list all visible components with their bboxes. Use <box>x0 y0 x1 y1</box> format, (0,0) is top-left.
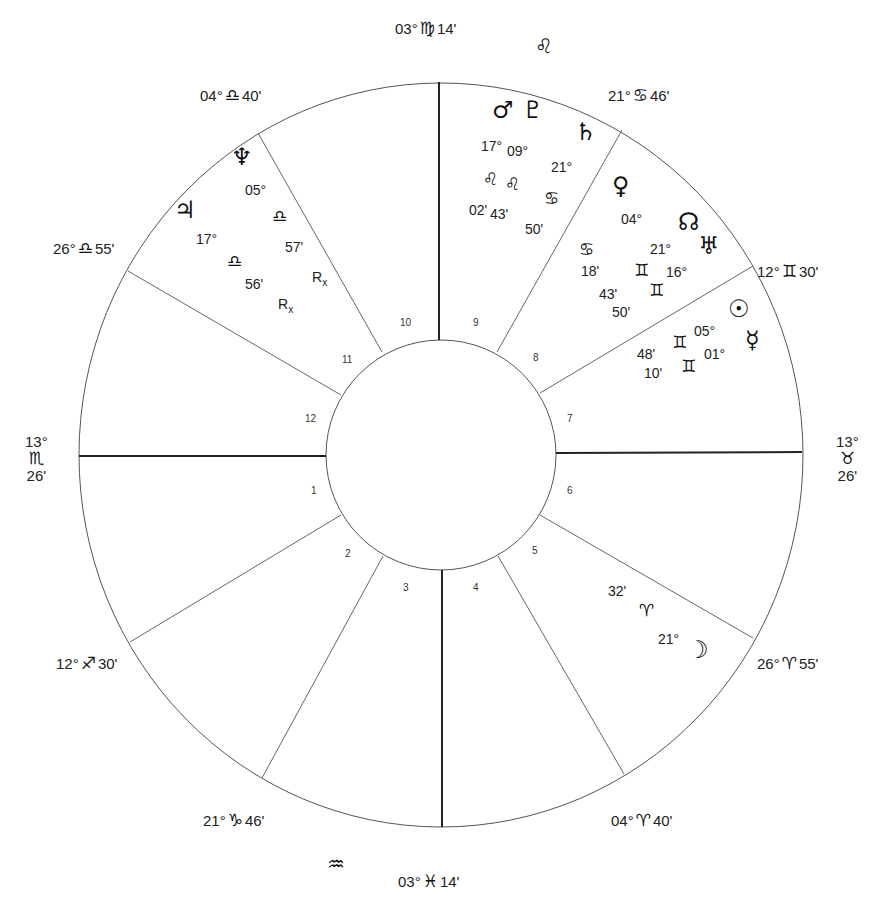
cusp-12-11 <box>128 271 341 395</box>
cusp-minutes: 14' <box>437 20 457 37</box>
venus-degree: 04° <box>621 212 642 226</box>
cusp-minutes: 30' <box>98 655 118 672</box>
cusp-minutes: 55' <box>95 240 115 257</box>
zodiac-sign-icon: ♋ <box>579 241 594 258</box>
mars-degree: 17° <box>481 139 502 153</box>
zodiac-sign-icon: ♈ <box>639 602 654 619</box>
zodiac-sign-icon: ♈ <box>782 653 797 673</box>
venus-minutes: 18' <box>581 264 599 278</box>
jupiter-icon: ♃ <box>174 198 196 222</box>
zodiac-sign-icon: ♌ <box>505 176 520 193</box>
cusp-minutes: 26' <box>25 467 48 484</box>
house-number: 11 <box>342 355 352 365</box>
moon-minutes: 32' <box>608 584 626 598</box>
zodiac-sign-icon: ♉ <box>836 450 859 467</box>
cusp-degree: 12° <box>757 263 780 280</box>
cusp-degree: 21° <box>608 87 631 104</box>
house-number: 6 <box>567 486 573 496</box>
sun-degree: 05° <box>694 324 715 338</box>
zodiac-sign-icon: ♊ <box>649 282 664 299</box>
cusp-degree: 03° <box>395 20 418 37</box>
house-number: 2 <box>345 549 351 559</box>
cusp-label-asc: 13°♏26' <box>25 433 48 484</box>
mars-icon: ♂ <box>492 98 514 122</box>
zodiac-sign-icon: ♏ <box>25 450 48 467</box>
neptune-retrograde-icon: Rx <box>312 270 327 288</box>
mercury-degree: 01° <box>704 347 725 361</box>
cusp-2-1 <box>130 515 341 642</box>
house-number: 7 <box>567 414 573 424</box>
pluto-icon: ♇ <box>522 98 544 122</box>
cusp-minutes: 46' <box>245 812 265 829</box>
intercepted-sign-icon: ♌ <box>535 36 553 56</box>
sun-icon: ☉ <box>728 297 750 321</box>
chart-wheel <box>0 0 889 905</box>
cusp-minutes: 46' <box>650 87 670 104</box>
pluto-minutes: 43' <box>490 207 508 221</box>
cusp-minutes: 40' <box>653 812 673 829</box>
cusp-label-c12: 26°♎55' <box>53 240 115 257</box>
cusp-3-2 <box>262 556 383 778</box>
house-number: 8 <box>533 353 539 363</box>
uranus-degree: 16° <box>666 265 687 279</box>
mercury-icon: ☿ <box>745 328 760 352</box>
saturn-minutes: 50' <box>525 222 543 236</box>
cusp-degree: 21° <box>203 812 226 829</box>
house-number: 1 <box>311 486 317 496</box>
cusp-label-c3: 21°♑46' <box>203 812 265 829</box>
inner-ring <box>326 340 556 570</box>
cusp-minutes: 26' <box>836 467 859 484</box>
cusp-label-c8: 12°♊30' <box>757 263 819 280</box>
saturn-degree: 21° <box>551 160 572 174</box>
uranus-icon: ♅ <box>698 234 720 258</box>
cusp-label-mc: 03°♍14' <box>395 20 457 37</box>
zodiac-sign-icon: ♐ <box>81 653 96 673</box>
house-number: 9 <box>473 318 479 328</box>
jupiter-degree: 17° <box>196 232 217 246</box>
house-number: 10 <box>400 318 411 328</box>
zodiac-sign-icon: ♈ <box>636 810 651 830</box>
zodiac-sign-icon: ♊ <box>634 262 649 279</box>
desc-axis <box>556 452 802 453</box>
cusp-label-c6: 26°♈55' <box>757 655 819 672</box>
neptune-minutes: 57' <box>285 240 303 254</box>
cusp-degree: 04° <box>200 87 223 104</box>
cusp-minutes: 55' <box>799 655 819 672</box>
zodiac-sign-icon: ♑ <box>228 810 243 830</box>
sun-minutes: 48' <box>637 347 655 361</box>
pluto-degree: 09° <box>507 144 528 158</box>
zodiac-sign-icon: ♊ <box>672 334 687 351</box>
saturn-icon: ♄ <box>575 120 597 144</box>
zodiac-sign-icon: ♎ <box>78 238 93 258</box>
north-node-icon: ☊ <box>678 210 699 234</box>
jupiter-minutes: 56' <box>245 277 263 291</box>
north-node-degree: 21° <box>650 242 671 256</box>
cusp-degree: 26° <box>53 240 76 257</box>
cusp-minutes: 14' <box>440 873 460 890</box>
uranus-minutes: 50' <box>612 305 630 319</box>
cusp-label-c11: 04°♎40' <box>200 87 262 104</box>
cusp-11-10 <box>258 133 382 352</box>
cusp-minutes: 40' <box>242 87 262 104</box>
zodiac-sign-icon: ♋ <box>633 85 648 105</box>
mercury-minutes: 10' <box>644 366 662 380</box>
cusp-label-ic: 03°♓14' <box>398 873 460 890</box>
moon-icon: ☽ <box>687 638 709 662</box>
cusp-label-c5: 04°♈40' <box>611 812 673 829</box>
moon-degree: 21° <box>658 632 679 646</box>
zodiac-sign-icon: ♎ <box>272 208 287 225</box>
zodiac-sign-icon: ♓ <box>423 871 438 891</box>
zodiac-sign-icon: ♋ <box>544 190 559 207</box>
zodiac-sign-icon: ♎ <box>225 85 240 105</box>
mars-minutes: 02' <box>469 203 487 217</box>
zodiac-sign-icon: ♌ <box>483 171 498 188</box>
cusp-degree: 03° <box>398 873 421 890</box>
house-number: 5 <box>532 546 538 556</box>
house-number: 4 <box>473 583 479 593</box>
house-number: 3 <box>403 583 409 593</box>
cusp-degree: 12° <box>56 655 79 672</box>
cusp-5-4 <box>498 556 624 774</box>
north-node-minutes: 43' <box>599 287 617 301</box>
neptune-degree: 05° <box>245 183 266 197</box>
intercepted-sign-icon: ♒ <box>327 854 345 874</box>
